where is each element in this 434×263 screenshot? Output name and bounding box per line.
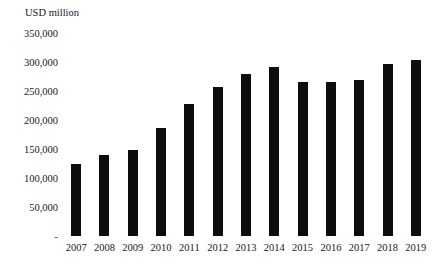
y-axis-tick-zero: -	[0, 231, 58, 242]
bar-slot	[119, 33, 147, 236]
plot-area	[62, 33, 430, 236]
bar-2009[interactable]	[128, 150, 138, 236]
y-axis-tick-200000: 200,000	[0, 115, 58, 126]
y-axis-tick-250000: 250,000	[0, 86, 58, 97]
x-axis-tick-2012: 2012	[204, 241, 232, 254]
y-axis-tick-100000: 100,000	[0, 173, 58, 184]
x-axis-tick-2015: 2015	[288, 241, 316, 254]
bar-slot	[345, 33, 373, 236]
x-axis-tick-2011: 2011	[175, 241, 203, 254]
bar-2019[interactable]	[411, 60, 421, 236]
x-axis-tick-2016: 2016	[317, 241, 345, 254]
bar-2017[interactable]	[354, 80, 364, 236]
y-axis-tick-350000: 350,000	[0, 28, 58, 39]
bar-slot	[317, 33, 345, 236]
bar-slot	[402, 33, 430, 236]
y-axis-tick-150000: 150,000	[0, 144, 58, 155]
x-axis-tick-2019: 2019	[402, 241, 430, 254]
x-axis-tick-2018: 2018	[373, 241, 401, 254]
bar-slot	[62, 33, 90, 236]
bar-slot	[90, 33, 118, 236]
chart-figure: USD million 350,000300,000250,000200,000…	[0, 0, 434, 263]
bar-2016[interactable]	[326, 82, 336, 236]
x-axis-tick-2017: 2017	[345, 241, 373, 254]
bar-slot	[232, 33, 260, 236]
bar-2011[interactable]	[184, 104, 194, 236]
bar-slot	[204, 33, 232, 236]
bar-slot	[260, 33, 288, 236]
x-axis-tick-labels: 2007200820092010201120122013201420152016…	[62, 241, 430, 257]
bar-2010[interactable]	[156, 128, 166, 236]
bar-2014[interactable]	[269, 67, 279, 236]
y-axis-tick-50000: 50,000	[0, 202, 58, 213]
bar-2013[interactable]	[241, 74, 251, 236]
bar-slot	[373, 33, 401, 236]
x-axis-tick-2009: 2009	[119, 241, 147, 254]
x-axis-tick-2007: 2007	[62, 241, 90, 254]
bar-2007[interactable]	[71, 164, 81, 237]
chart-axis-unit-title: USD million	[25, 6, 79, 19]
x-axis-tick-2008: 2008	[90, 241, 118, 254]
bar-2015[interactable]	[298, 82, 308, 236]
x-axis-tick-2013: 2013	[232, 241, 260, 254]
bar-slot	[147, 33, 175, 236]
bar-2018[interactable]	[383, 64, 393, 236]
x-axis-tick-2010: 2010	[147, 241, 175, 254]
bar-slot	[288, 33, 316, 236]
bar-2008[interactable]	[99, 155, 109, 236]
x-axis-tick-2014: 2014	[260, 241, 288, 254]
bar-2012[interactable]	[213, 87, 223, 236]
bar-slot	[175, 33, 203, 236]
y-axis-tick-300000: 300,000	[0, 57, 58, 68]
